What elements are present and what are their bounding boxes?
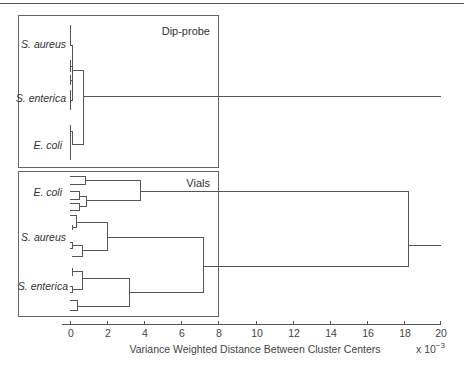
x-axis-label: Variance Weighted Distance Between Clust… <box>129 343 380 355</box>
vials-label-s-enterica: S. enterica <box>18 280 68 292</box>
multiplier-exponent: −3 <box>436 341 446 350</box>
dip-probe-dendrogram <box>70 25 441 160</box>
x-tick-8: 8 <box>216 327 222 339</box>
dendrogram-chart: Dip-probe Vials S. aureus S. enterica E.… <box>0 0 464 369</box>
x-tick-18: 18 <box>399 327 411 339</box>
x-tick-12: 12 <box>288 327 300 339</box>
dip-probe-title: Dip-probe <box>162 25 210 37</box>
vials-label-s-aureus: S. aureus <box>21 231 67 243</box>
x-tick-14: 14 <box>325 327 337 339</box>
x-tick-20: 20 <box>435 327 447 339</box>
vials-label-e-coli: E. coli <box>33 186 62 198</box>
vials-title: Vials <box>186 177 210 189</box>
x-axis-multiplier: x 10−3 <box>416 341 446 355</box>
x-tick-6: 6 <box>179 327 185 339</box>
multiplier-base: x 10 <box>416 343 436 355</box>
dip-label-e-coli: E. coli <box>33 139 62 151</box>
x-tick-0: 0 <box>68 327 74 339</box>
dip-label-s-enterica: S. enterica <box>16 92 66 104</box>
x-tick-2: 2 <box>105 327 111 339</box>
x-tick-4: 4 <box>142 327 148 339</box>
x-tick-16: 16 <box>362 327 374 339</box>
x-tick-10: 10 <box>251 327 263 339</box>
dip-label-s-aureus: S. aureus <box>21 38 67 50</box>
x-axis: 0 2 4 6 8 10 12 14 16 18 20 Variance Wei… <box>62 321 447 355</box>
vials-dendrogram <box>70 176 441 311</box>
